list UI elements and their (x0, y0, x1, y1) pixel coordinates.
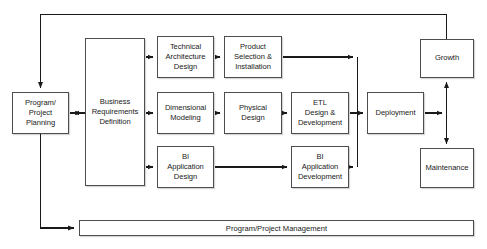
node-label-bi-application-development: BIApplicationDevelopment (294, 152, 346, 183)
line-3: Definition (90, 117, 141, 127)
line-1: Technical (164, 42, 208, 52)
line-1: Dimensional (163, 103, 208, 113)
line-1: Physical (237, 103, 269, 113)
line-1: Growth (433, 53, 461, 63)
node-label-technical-architecture-design: TechnicalArchitectureDesign (162, 42, 210, 73)
line-1: ETL (296, 98, 344, 108)
line-2: Architecture (164, 52, 208, 62)
node-label-growth: Growth (431, 53, 463, 63)
node-program-project-planning[interactable]: Program/ProjectPlanning (12, 92, 69, 134)
node-label-physical-design: PhysicalDesign (235, 103, 271, 123)
node-bi-application-design[interactable]: BIApplicationDesign (157, 146, 214, 188)
line-1: BI (296, 152, 344, 162)
node-deployment[interactable]: Deployment (367, 92, 424, 134)
line-2: Selection & (232, 52, 274, 62)
node-label-bi-application-design: BIApplicationDesign (163, 152, 208, 183)
node-label-program-project-planning: Program/ProjectPlanning (21, 98, 60, 129)
line-2: Requirements (90, 107, 141, 117)
node-label-maintenance: Maintenance (422, 163, 473, 173)
node-growth[interactable]: Growth (420, 39, 474, 78)
node-bi-application-development[interactable]: BIApplicationDevelopment (291, 146, 349, 188)
node-etl-design-development[interactable]: ETLDesign &Development (291, 92, 349, 134)
line-2: Application (296, 162, 344, 172)
node-label-deployment: Deployment (371, 108, 419, 118)
node-label-dimensional-modeling: DimensionalModeling (161, 103, 210, 123)
node-label-business-requirements-definition: BusinessRequirementsDefinition (88, 97, 143, 128)
node-label-program-project-management: Program/Project Management (226, 224, 327, 233)
line-2: Project (23, 108, 58, 118)
line-3: Planning (23, 118, 58, 128)
node-product-selection-installation[interactable]: ProductSelection &Installation (224, 36, 282, 78)
line-2: Application (165, 162, 206, 172)
node-label-product-selection-installation: ProductSelection &Installation (230, 42, 276, 73)
line-3: Installation (232, 62, 274, 72)
diagram-canvas: Program/ProjectPlanning BusinessRequirem… (0, 0, 487, 249)
line-3: Development (296, 172, 344, 182)
line-1: Product (232, 42, 274, 52)
line-2: Modeling (163, 113, 208, 123)
line-3: Design (165, 172, 206, 182)
node-physical-design[interactable]: PhysicalDesign (224, 92, 282, 134)
node-maintenance[interactable]: Maintenance (420, 148, 474, 188)
node-label-etl-design-development: ETLDesign &Development (294, 98, 346, 129)
line-1: Deployment (373, 108, 417, 118)
line-1: BI (165, 152, 206, 162)
line-2: Design (237, 113, 269, 123)
node-business-requirements-definition[interactable]: BusinessRequirementsDefinition (85, 38, 145, 186)
node-program-project-management[interactable]: Program/Project Management (79, 220, 474, 236)
node-technical-architecture-design[interactable]: TechnicalArchitectureDesign (157, 36, 214, 78)
line-1: Business (90, 97, 141, 107)
line-3: Design (164, 62, 208, 72)
line-1: Program/ (23, 98, 58, 108)
line-3: Development (296, 118, 344, 128)
node-dimensional-modeling[interactable]: DimensionalModeling (157, 92, 214, 134)
line-2: Design & (296, 108, 344, 118)
line-1: Maintenance (424, 163, 471, 173)
edge-planning-to-ppm (41, 134, 75, 228)
